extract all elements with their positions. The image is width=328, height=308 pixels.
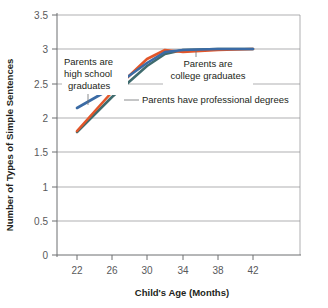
annot-high-school-line2: high school [64,68,112,79]
annot-college-line1: Parents are [183,58,232,69]
y-tick-label-2-5: 2.5 [34,79,48,90]
x-axis-title: Child's Age (Months) [135,287,229,298]
y-axis-title: Number of Types of Simple Sentences [4,59,15,231]
y-tick-label-1-5: 1.5 [34,147,48,158]
y-tick-labels: 3.5 3 2.5 2 1.5 1 0.5 0 [34,10,48,261]
annot-high-school-line1: Parents are [64,56,113,67]
x-tick-label-26: 26 [106,265,118,276]
x-tick-label-38: 38 [212,265,224,276]
chart-figure: 3.5 3 2.5 2 1.5 1 0.5 0 22 26 30 34 38 4… [0,0,328,308]
x-tick-label-30: 30 [141,265,153,276]
line-chart-canvas: 3.5 3 2.5 2 1.5 1 0.5 0 22 26 30 34 38 4… [0,0,328,308]
annotation-college-graduates: Parents are college graduates [163,51,253,85]
annot-high-school-line3: graduates [68,80,111,91]
x-tick-label-34: 34 [177,265,189,276]
annot-college-line2: college graduates [171,70,246,81]
x-tick-label-42: 42 [247,265,259,276]
y-tick-marks [52,15,57,255]
x-tick-marks [77,255,253,260]
y-tick-label-3: 3 [42,44,48,55]
gridlines [57,15,300,221]
y-tick-label-2: 2 [42,113,48,124]
y-tick-label-0: 0 [42,250,48,261]
x-tick-labels: 22 26 30 34 38 42 [71,265,259,276]
y-tick-label-1: 1 [42,182,48,193]
annotation-professional-degrees: Parents have professional degrees [124,92,294,107]
y-tick-label-0-5: 0.5 [34,216,48,227]
y-tick-label-3-5: 3.5 [34,10,48,21]
annot-professional-line1: Parents have professional degrees [142,94,289,105]
x-tick-label-22: 22 [71,265,83,276]
